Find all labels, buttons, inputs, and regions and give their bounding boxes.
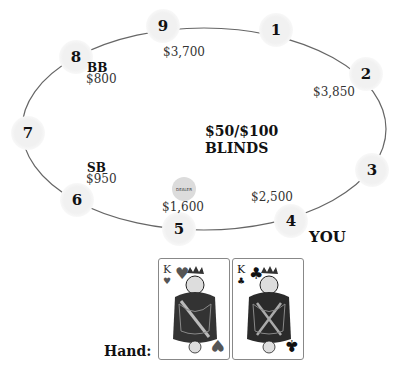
crown-icon <box>261 266 278 274</box>
heart-icon: ♥ <box>211 336 225 355</box>
king-face-inverted <box>263 341 275 353</box>
seat-9-stack: $3,700 <box>163 45 205 59</box>
dealer-button: DEALER <box>172 177 196 201</box>
king-face <box>186 276 204 294</box>
you-label: YOU <box>309 228 346 246</box>
seat-number: 1 <box>271 21 281 39</box>
blinds-info: $50/$100 BLINDS <box>205 123 278 157</box>
crown-icon <box>187 266 204 274</box>
king-face-inverted <box>189 341 201 353</box>
card-king-of-hearts: K ♥ ♥ ♥ <box>158 258 230 360</box>
seat-number: 6 <box>72 191 82 209</box>
card-king-of-clubs: K ♣ ♣ ♣ <box>232 258 304 360</box>
seat-2-stack: $3,850 <box>313 85 355 99</box>
seat-7[interactable]: 7 <box>11 116 45 150</box>
seat-4[interactable]: 4 <box>274 204 308 238</box>
seat-number: 8 <box>71 48 81 66</box>
seat-5[interactable]: 5 <box>162 212 196 246</box>
seat-6-stack: $950 <box>86 172 117 186</box>
card-rank: K <box>237 263 246 276</box>
card-rank: K <box>163 263 172 276</box>
seat-3[interactable]: 3 <box>355 153 389 187</box>
heart-icon: ♥ <box>163 276 171 286</box>
dealer-label: DEALER <box>176 187 192 192</box>
blinds-amount: $50/$100 <box>205 123 278 140</box>
club-icon: ♣ <box>285 336 299 355</box>
seat-8-stack: $800 <box>86 72 117 86</box>
seat-1[interactable]: 1 <box>259 13 293 47</box>
seat-number: 2 <box>361 65 371 83</box>
seat-number: 3 <box>367 161 377 179</box>
king-face <box>260 276 278 294</box>
seat-number: 4 <box>286 212 296 230</box>
hand-label: Hand: <box>104 343 151 359</box>
seat-number: 7 <box>23 124 33 142</box>
club-icon: ♣ <box>237 276 245 286</box>
seat-6[interactable]: 6 <box>60 183 94 217</box>
seat-5-stack: $1,600 <box>162 200 204 214</box>
seat-number: 9 <box>158 17 168 35</box>
seat-number: 5 <box>174 220 184 238</box>
seat-9[interactable]: 9 <box>146 9 180 43</box>
blinds-label: BLINDS <box>205 140 278 157</box>
seat-4-stack: $2,500 <box>251 190 293 204</box>
